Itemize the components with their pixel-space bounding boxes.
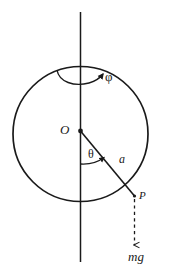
particle-point-dot (133, 194, 136, 197)
label-azimuthal-angle-phi: φ (105, 70, 113, 83)
label-center-O: O (60, 123, 69, 136)
physics-diagram-figure: O θ a φ P mg (0, 0, 179, 272)
label-particle-P: P (139, 190, 146, 201)
label-radius-a: a (119, 153, 125, 165)
label-polar-angle-theta: θ (88, 148, 94, 160)
label-weight-mg: mg (128, 250, 144, 263)
diagram-canvas (0, 0, 179, 272)
